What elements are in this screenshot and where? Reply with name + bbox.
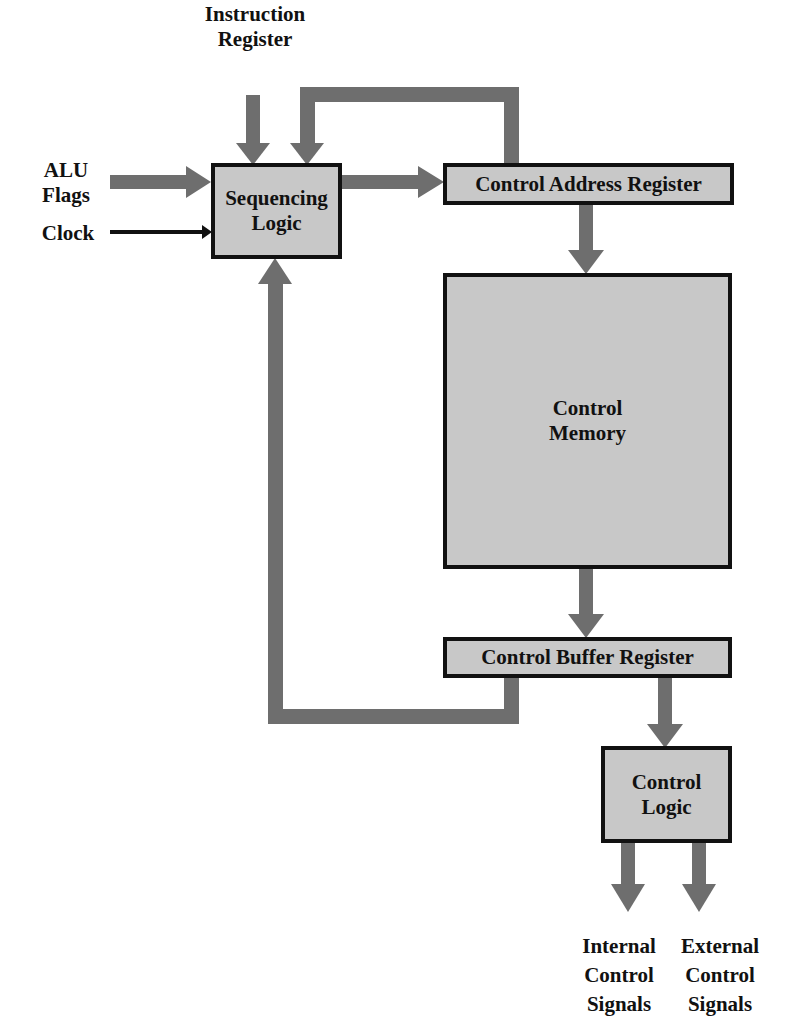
arrow-external-signals bbox=[692, 842, 706, 888]
arrow-car-feedback bbox=[300, 87, 519, 102]
label-clock: Clock bbox=[38, 221, 98, 246]
block-sequencing-logic: Sequencing Logic bbox=[211, 163, 342, 259]
label-external-control-signals: External Control Signals bbox=[672, 932, 768, 1019]
arrow-clock bbox=[110, 230, 206, 234]
block-control-logic: Control Logic bbox=[601, 746, 732, 843]
block-control-memory: Control Memory bbox=[443, 273, 732, 569]
arrow-alu-flags bbox=[110, 175, 188, 189]
arrow-internal-signals bbox=[621, 842, 635, 888]
arrow-instruction-register bbox=[246, 95, 260, 143]
block-control-buffer-register: Control Buffer Register bbox=[443, 637, 732, 678]
arrow-seq-to-car bbox=[342, 175, 420, 189]
label-instruction-register: Instruction Register bbox=[190, 2, 320, 52]
arrow-car-to-memory bbox=[579, 204, 593, 252]
arrow-cbr-to-logic bbox=[658, 676, 672, 726]
block-control-address-register: Control Address Register bbox=[443, 163, 734, 205]
label-alu-flags: ALU Flags bbox=[36, 158, 96, 208]
label-internal-control-signals: Internal Control Signals bbox=[574, 932, 664, 1019]
arrow-memory-to-cbr bbox=[579, 568, 593, 616]
